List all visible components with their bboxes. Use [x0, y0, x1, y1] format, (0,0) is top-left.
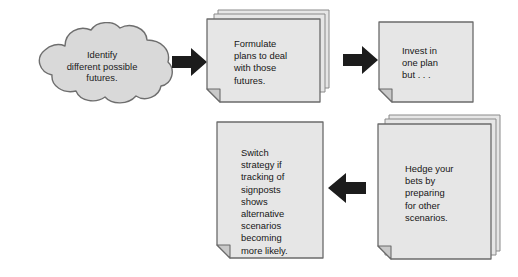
- node-switch-strategy-label: Switch strategy if tracking of signposts…: [241, 147, 323, 257]
- node-formulate-plans-label: Formulate plans to deal with those futur…: [234, 38, 326, 87]
- arrow-hedge-to-switch: [327, 172, 367, 204]
- arrow-right-icon: [343, 45, 379, 75]
- node-hedge-bets-label: Hedge your bets by preparing for other s…: [405, 163, 489, 224]
- node-identify-futures: Identify different possible futures.: [27, 22, 177, 110]
- node-formulate-plans: Formulate plans to deal with those futur…: [206, 10, 330, 108]
- arrow-formulate-to-invest: [343, 45, 379, 75]
- node-identify-futures-label: Identify different possible futures.: [39, 49, 165, 84]
- node-hedge-bets: Hedge your bets by preparing for other s…: [377, 115, 501, 260]
- node-invest-one-plan-label: Invest in one plan but . . .: [402, 45, 472, 82]
- arrow-cloud-to-formulate: [172, 47, 208, 77]
- arrow-left-icon: [327, 172, 367, 204]
- node-invest-one-plan: Invest in one plan but . . .: [378, 21, 474, 103]
- diagram-canvas: Identify different possible futures. For…: [0, 0, 518, 277]
- node-switch-strategy: Switch strategy if tracking of signposts…: [216, 121, 324, 259]
- arrow-right-icon: [172, 47, 208, 77]
